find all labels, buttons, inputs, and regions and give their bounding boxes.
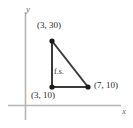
feasible-set-label: f.s. (54, 68, 64, 76)
point-label-bottom-right: (7, 10) (94, 81, 118, 90)
vertex-marker-top (49, 38, 54, 43)
triangle-edge-hypotenuse (52, 41, 88, 87)
point-label-top: (3, 30) (37, 21, 61, 30)
coordinate-plane-figure: y x (3, 30) (3, 10) (7, 10) f.s. (0, 0, 133, 128)
point-label-bottom-left: (3, 10) (31, 91, 55, 100)
x-axis-label: x (122, 107, 126, 116)
figure-canvas (0, 0, 133, 128)
y-axis-label: y (26, 5, 30, 14)
vertex-marker-bottom-right (85, 84, 90, 89)
vertex-marker-bottom-left (49, 84, 54, 89)
